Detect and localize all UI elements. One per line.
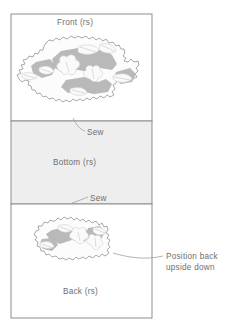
seam-label-sew-top: Sew [87,128,104,139]
panel-label-back: Back (rs) [63,287,98,298]
panel-label-bottom: Bottom (rs) [53,158,96,169]
callout-line-1: Position back [166,252,218,263]
sewing-layout-diagram: Front (rs) Sew Bottom (rs) Sew Back (rs)… [0,0,235,332]
seam-label-sew-bottom: Sew [90,194,107,205]
diagram-canvas [0,0,235,332]
panel-label-front: Front (rs) [57,18,93,29]
callout-line-2: upside down [166,263,218,274]
callout-annotation: Position back upside down [166,252,218,273]
